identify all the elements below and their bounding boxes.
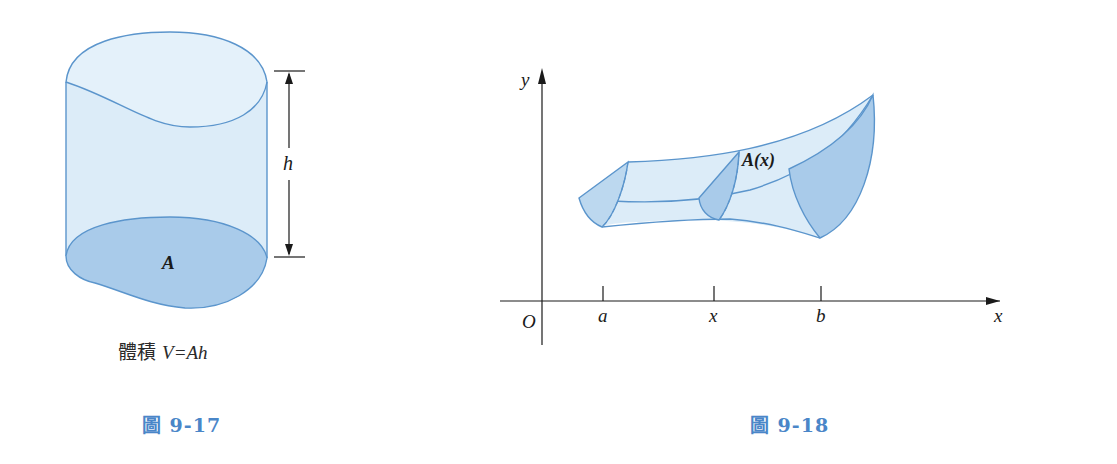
arrow-down-icon [285, 244, 293, 256]
x-axis-label: x [993, 305, 1003, 326]
figures-canvas: h A A(x) y x O a x b [0, 0, 1117, 464]
formula-expression: V=Ah [162, 342, 208, 363]
formula-prefix: 體積 [118, 341, 156, 363]
volume-formula: 體積 V=Ah [118, 337, 208, 364]
tick-label-b: b [816, 305, 826, 326]
height-label: h [283, 152, 293, 174]
cylinder-figure: h A [66, 32, 305, 308]
base-label: A [161, 252, 175, 273]
tick-label-x: x [708, 305, 718, 326]
y-axis-arrow-icon [538, 68, 546, 84]
cross-section-figure: A(x) y x O a x b [500, 68, 1003, 345]
cross-section-label: A(x) [741, 150, 775, 171]
origin-label: O [522, 311, 536, 332]
y-axis-label: y [519, 69, 530, 90]
caption-fig-9-18: 圖 9-18 [750, 410, 829, 437]
arrow-up-icon [285, 72, 293, 84]
tick-label-a: a [598, 305, 608, 326]
x-axis-arrow-icon [986, 297, 1000, 305]
caption-fig-9-17: 圖 9-17 [142, 410, 221, 437]
